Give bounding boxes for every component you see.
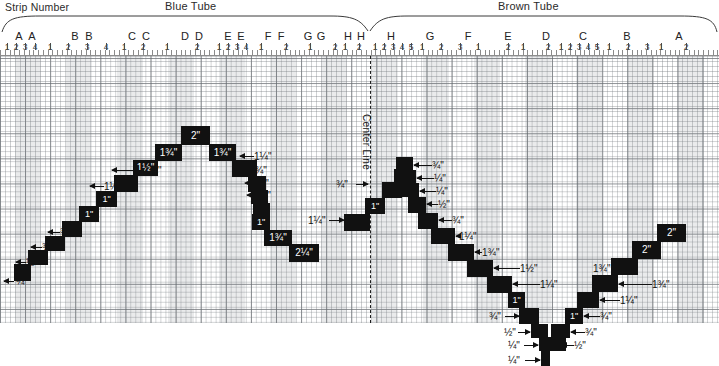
callout-arrow xyxy=(420,191,436,192)
block-label: 1¾" xyxy=(269,233,286,243)
callout-arrow xyxy=(16,262,26,263)
measure-block xyxy=(418,213,438,229)
ruler-major-tick xyxy=(384,43,385,50)
measure-block xyxy=(577,292,599,308)
callout-arrow xyxy=(356,184,368,185)
ruler-major-tick xyxy=(228,43,229,50)
ruler-major-tick xyxy=(237,43,238,50)
ruler-major-tick xyxy=(647,43,648,50)
ruler-major-tick xyxy=(35,43,36,50)
callout-arrow xyxy=(525,360,540,361)
ruler-major-tick xyxy=(246,43,247,50)
measure-block: 2" xyxy=(632,241,661,259)
ruler-major-tick xyxy=(402,43,403,50)
measure-block: 2" xyxy=(181,126,210,145)
ruler-letter: D xyxy=(181,30,189,42)
ruler-letter: E xyxy=(237,30,244,42)
ruler-letter: F xyxy=(278,30,285,42)
callout-arrow xyxy=(619,268,633,269)
measure-block: 2" xyxy=(657,224,686,242)
measurement-callout: ½" xyxy=(26,258,38,268)
measurement-callout: ¼" xyxy=(508,356,520,366)
block-label: 1¾" xyxy=(214,148,231,158)
measure-block: 1" xyxy=(79,206,99,222)
measurement-callout: 1¼" xyxy=(144,166,161,176)
measure-block xyxy=(344,214,370,231)
callout-arrow xyxy=(243,170,255,171)
measurement-callout: ¾" xyxy=(600,312,612,322)
callout-arrow xyxy=(494,268,520,269)
measurement-callout: ¼" xyxy=(16,277,28,287)
measurement-callout: 1¾" xyxy=(593,264,610,274)
callout-arrow xyxy=(518,332,530,333)
callout-arrow xyxy=(524,345,538,346)
block-label: 2" xyxy=(642,245,651,255)
measurement-callout: ¾" xyxy=(489,312,501,322)
measurement-callout: 1½" xyxy=(520,264,537,274)
ruler-letter: B xyxy=(85,30,92,42)
strip-number-label: Strip Number xyxy=(5,1,69,13)
measure-block xyxy=(408,197,426,213)
measure-block: 1¾" xyxy=(264,230,292,246)
measurement-callout: 1¼" xyxy=(459,232,476,242)
block-label: 1" xyxy=(85,210,93,219)
callout-arrow xyxy=(414,165,432,166)
measure-block xyxy=(592,275,618,292)
ruler-major-tick xyxy=(661,43,662,50)
measurement-callout: ¼" xyxy=(434,174,446,184)
measure-block xyxy=(487,276,512,293)
ruler-letter: H xyxy=(387,30,395,42)
callout-arrow xyxy=(90,186,104,187)
callout-arrow xyxy=(505,316,519,317)
measure-block xyxy=(467,260,493,277)
ruler-major-tick xyxy=(167,43,168,50)
ruler-major-tick xyxy=(548,43,549,50)
step-diagram: Center Line 1"1"1½"1¾"2"1¾"1"1¾"2¼"1"1"1… xyxy=(0,55,719,323)
ruler-major-tick xyxy=(411,43,412,50)
ruler-major-tick xyxy=(68,43,69,50)
callout-arrow xyxy=(475,252,482,253)
callout-arrow xyxy=(584,316,600,317)
ruler-major-tick xyxy=(143,43,144,50)
callout-arrow xyxy=(571,332,585,333)
ruler-major-tick xyxy=(106,43,107,50)
measurement-callout: ½" xyxy=(504,328,516,338)
ruler-letter: A xyxy=(28,30,35,42)
measurement-callout: ¾" xyxy=(255,166,267,176)
ruler-letter: F xyxy=(265,30,272,42)
measurement-callout: ¾" xyxy=(585,328,597,338)
measurement-callout: 1¼" xyxy=(540,280,557,290)
ruler-major-tick xyxy=(7,43,8,50)
callout-arrow xyxy=(600,300,620,301)
measurement-callout: ¼" xyxy=(257,179,269,189)
measurement-callout: 1¼" xyxy=(620,296,637,306)
measurement-callout: ¾" xyxy=(42,243,54,253)
ruler-major-tick xyxy=(460,43,461,50)
measure-block xyxy=(551,324,570,338)
ruler-letter: E xyxy=(504,30,511,42)
ruler-letter: A xyxy=(15,30,22,42)
block-label: 2" xyxy=(191,131,200,141)
ruler-letter: D xyxy=(542,30,550,42)
ruler-major-tick xyxy=(393,43,394,50)
center-line-label: Center Line xyxy=(361,114,372,170)
ruler-major-tick xyxy=(16,43,17,50)
ruler-major-tick xyxy=(588,43,589,50)
ruler-major-tick xyxy=(261,43,262,50)
measurement-callout: 1¼" xyxy=(104,182,121,192)
measure-block: 1" xyxy=(252,214,270,230)
ruler-major-tick xyxy=(345,43,346,50)
block-label: 1" xyxy=(512,296,520,305)
ruler-major-tick xyxy=(609,43,610,50)
measure-block: 1" xyxy=(365,198,385,214)
measurement-callout: ½" xyxy=(574,341,586,351)
ruler-major-tick xyxy=(335,43,336,50)
measurement-callout: ¾" xyxy=(60,228,72,238)
ruler-major-tick xyxy=(441,43,442,50)
ruler-letter: H xyxy=(344,30,352,42)
ruler-major-tick xyxy=(25,43,26,50)
callout-arrow xyxy=(439,220,452,221)
callout-arrow xyxy=(562,345,574,346)
measurement-callout: ½" xyxy=(438,200,450,210)
measure-block: 1¾" xyxy=(155,144,182,161)
